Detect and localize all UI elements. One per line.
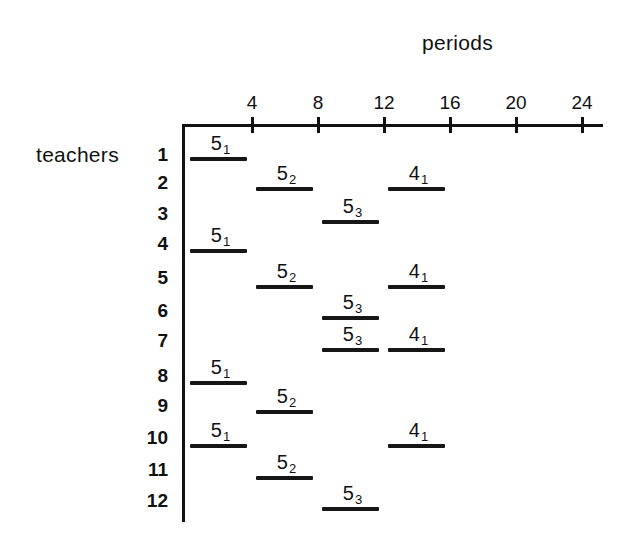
teacher-row-label: 10 [128, 427, 168, 449]
teacher-schedule-diagram: periods teachers 4812162024 123456789101… [0, 0, 640, 552]
schedule-bar [256, 410, 313, 414]
schedule-bar [256, 187, 313, 191]
schedule-bar [388, 187, 445, 191]
schedule-bar [322, 316, 379, 320]
bar-label-main: 5 [277, 451, 288, 473]
bar-label-main: 5 [211, 224, 222, 246]
bar-label-main: 5 [277, 385, 288, 407]
teacher-row-label: 5 [128, 267, 168, 289]
bar-label-subscript: 1 [223, 234, 230, 249]
x-tick-label: 20 [505, 92, 526, 114]
schedule-bar [256, 285, 313, 289]
schedule-bar [322, 348, 379, 352]
x-tick-mark [515, 117, 518, 133]
schedule-bar [322, 220, 379, 224]
schedule-bar-label: 51 [211, 419, 230, 444]
schedule-bar-label: 52 [277, 451, 296, 476]
x-axis-line [183, 124, 603, 127]
schedule-bar [388, 348, 445, 352]
schedule-bar [388, 285, 445, 289]
schedule-bar [190, 444, 247, 448]
schedule-bar [256, 476, 313, 480]
x-tick-mark [383, 117, 386, 133]
x-tick-label: 4 [247, 92, 258, 114]
x-axis-title: periods [422, 31, 493, 55]
bar-label-subscript: 1 [223, 366, 230, 381]
schedule-bar [190, 381, 247, 385]
teacher-row-label: 4 [128, 233, 168, 255]
bar-label-subscript: 1 [421, 172, 428, 187]
x-tick-label: 16 [439, 92, 460, 114]
bar-label-main: 4 [409, 419, 420, 441]
schedule-bar [388, 444, 445, 448]
bar-label-main: 5 [343, 291, 354, 313]
teacher-row-label: 9 [128, 395, 168, 417]
teacher-row-label: 12 [128, 490, 168, 512]
schedule-bar [190, 249, 247, 253]
teacher-row-label: 3 [128, 203, 168, 225]
schedule-bar-label: 53 [343, 291, 362, 316]
schedule-bar-label: 52 [277, 260, 296, 285]
teacher-row-label: 7 [128, 330, 168, 352]
bar-label-main: 5 [343, 323, 354, 345]
bar-label-subscript: 1 [421, 429, 428, 444]
schedule-bar-label: 41 [409, 260, 428, 285]
bar-label-subscript: 2 [289, 395, 296, 410]
bar-label-subscript: 2 [289, 461, 296, 476]
bar-label-main: 5 [277, 162, 288, 184]
schedule-bar-label: 53 [343, 482, 362, 507]
x-tick-label: 24 [571, 92, 592, 114]
schedule-bar-label: 41 [409, 323, 428, 348]
bar-label-subscript: 3 [355, 301, 362, 316]
x-tick-mark [317, 117, 320, 133]
schedule-bar-label: 52 [277, 162, 296, 187]
schedule-bar-label: 53 [343, 323, 362, 348]
bar-label-subscript: 3 [355, 333, 362, 348]
x-tick-mark [581, 117, 584, 133]
bar-label-subscript: 1 [421, 333, 428, 348]
x-tick-mark [449, 117, 452, 133]
bar-label-main: 5 [343, 482, 354, 504]
x-tick-label: 12 [373, 92, 394, 114]
bar-label-subscript: 3 [355, 205, 362, 220]
bar-label-main: 5 [211, 132, 222, 154]
schedule-bar [190, 157, 247, 161]
teacher-row-label: 1 [128, 144, 168, 166]
schedule-bar-label: 51 [211, 224, 230, 249]
schedule-bar-label: 51 [211, 132, 230, 157]
bar-label-main: 5 [277, 260, 288, 282]
bar-label-main: 4 [409, 323, 420, 345]
bar-label-subscript: 2 [289, 172, 296, 187]
schedule-bar-label: 41 [409, 162, 428, 187]
bar-label-subscript: 2 [289, 270, 296, 285]
teacher-row-label: 8 [128, 365, 168, 387]
y-axis-title: teachers [36, 143, 119, 167]
bar-label-main: 4 [409, 260, 420, 282]
bar-label-subscript: 1 [421, 270, 428, 285]
schedule-bar-label: 41 [409, 419, 428, 444]
bar-label-main: 5 [211, 419, 222, 441]
schedule-bar-label: 52 [277, 385, 296, 410]
schedule-bar-label: 51 [211, 356, 230, 381]
bar-label-main: 5 [343, 195, 354, 217]
x-tick-mark [251, 117, 254, 133]
bar-label-main: 4 [409, 162, 420, 184]
bar-label-subscript: 1 [223, 142, 230, 157]
bar-label-main: 5 [211, 356, 222, 378]
teacher-row-label: 6 [128, 300, 168, 322]
bar-label-subscript: 1 [223, 429, 230, 444]
y-axis-line [182, 124, 185, 522]
x-tick-label: 8 [313, 92, 324, 114]
teacher-row-label: 11 [128, 459, 168, 481]
teacher-row-label: 2 [128, 172, 168, 194]
schedule-bar-label: 53 [343, 195, 362, 220]
bar-label-subscript: 3 [355, 492, 362, 507]
schedule-bar [322, 507, 379, 511]
